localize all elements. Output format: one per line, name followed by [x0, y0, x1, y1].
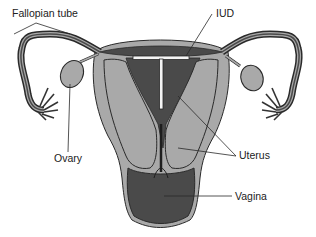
ovary-left [56, 54, 98, 91]
label-ovary: Ovary [54, 153, 82, 164]
ovary-right [226, 56, 267, 94]
label-fallopian-tube: Fallopian tube [12, 8, 78, 19]
label-iud: IUD [216, 8, 234, 19]
leader-ovary [68, 84, 70, 152]
label-uterus: Uterus [239, 150, 270, 161]
label-vagina: Vagina [235, 191, 267, 202]
reproductive-anatomy-diagram [0, 0, 316, 237]
